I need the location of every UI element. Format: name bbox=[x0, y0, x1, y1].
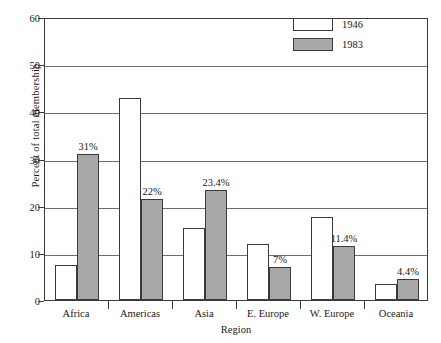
bar-group bbox=[375, 19, 419, 300]
gridline bbox=[45, 255, 427, 256]
bar-group bbox=[183, 19, 227, 300]
x-tick-label: W. Europe bbox=[310, 308, 355, 319]
x-tick-mark bbox=[172, 301, 173, 309]
y-tick-label: 60 bbox=[4, 13, 40, 24]
y-tick-label: 50 bbox=[4, 60, 40, 71]
plot-area: 31%22%23.4%7%11.4%4.4% bbox=[44, 18, 428, 301]
y-tick-label: 30 bbox=[4, 154, 40, 165]
bar-asia-1983 bbox=[205, 190, 227, 300]
bar-africa-1983 bbox=[77, 154, 99, 300]
x-tick-label: Africa bbox=[63, 308, 90, 319]
bar-africa-1946 bbox=[55, 265, 77, 300]
gridline bbox=[45, 208, 427, 209]
bar-oceania-1946 bbox=[375, 284, 397, 301]
x-tick-label: E. Europe bbox=[247, 308, 289, 319]
x-tick-label: Oceania bbox=[379, 308, 413, 319]
gridline bbox=[45, 161, 427, 162]
x-tick-label: Asia bbox=[194, 308, 213, 319]
bar-americas-1946 bbox=[119, 98, 141, 300]
bar-e-europe-1946 bbox=[247, 244, 269, 300]
bar-group bbox=[247, 19, 291, 300]
x-tick-label: Americas bbox=[120, 308, 160, 319]
y-tick-label: 0 bbox=[4, 296, 40, 307]
x-tick-mark bbox=[364, 301, 365, 309]
bar-group bbox=[119, 19, 163, 300]
legend-item-1983: 1983 bbox=[293, 36, 363, 53]
y-tick-label: 20 bbox=[4, 201, 40, 212]
bar-oceania-1983 bbox=[397, 279, 419, 300]
bar-asia-1946 bbox=[183, 228, 205, 300]
x-tick-mark bbox=[236, 301, 237, 309]
legend-label-1983: 1983 bbox=[342, 39, 363, 50]
gridline bbox=[45, 66, 427, 67]
legend-swatch-1983 bbox=[293, 38, 333, 51]
x-tick-mark bbox=[300, 301, 301, 309]
bar-group bbox=[55, 19, 99, 300]
y-tick-label: 40 bbox=[4, 107, 40, 118]
bar-chart: Percent of total membership 010203040506… bbox=[0, 0, 441, 343]
chart-legend: 19461983 bbox=[293, 16, 363, 56]
y-tick-mark bbox=[38, 301, 44, 302]
bar-w-europe-1983 bbox=[333, 246, 355, 300]
y-axis-ticks: 0102030405060 bbox=[0, 0, 40, 343]
gridline bbox=[45, 113, 427, 114]
bar-group bbox=[311, 19, 355, 300]
bar-w-europe-1946 bbox=[311, 217, 333, 300]
legend-swatch-1946 bbox=[293, 18, 333, 31]
x-axis-title: Region bbox=[44, 324, 428, 335]
x-tick-mark bbox=[108, 301, 109, 309]
y-tick-label: 10 bbox=[4, 248, 40, 259]
bar-americas-1983 bbox=[141, 199, 163, 300]
bar-e-europe-1983 bbox=[269, 267, 291, 300]
legend-label-1946: 1946 bbox=[342, 19, 363, 30]
legend-item-1946: 1946 bbox=[293, 16, 363, 33]
